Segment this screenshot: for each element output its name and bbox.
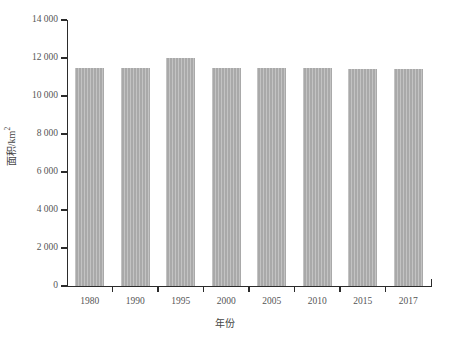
y-axis-tick-label: 2 000 <box>37 243 58 253</box>
x-axis-tick-label: 1995 <box>156 297 206 307</box>
bar-2010 <box>303 68 332 286</box>
y-axis-title: 面积/km2 <box>3 107 18 187</box>
x-axis-tick-label: 2000 <box>201 297 251 307</box>
y-axis-tick-label: 10 000 <box>32 91 58 101</box>
x-axis-tick <box>385 286 386 292</box>
bar-2005 <box>257 68 286 286</box>
x-axis-tick <box>294 286 295 292</box>
x-axis-tick <box>248 286 249 292</box>
bar-2015 <box>348 69 377 286</box>
x-axis-tick <box>112 286 113 292</box>
plot-area <box>67 20 432 286</box>
bar-1995 <box>166 58 195 286</box>
y-axis-tick-label: 0 <box>53 281 58 291</box>
y-axis-tick-label: 14 000 <box>32 15 58 25</box>
x-axis-tick-label: 2015 <box>338 297 388 307</box>
x-axis-tick <box>203 286 204 292</box>
y-axis-tick-label: 12 000 <box>32 53 58 63</box>
x-axis-tick-label: 1980 <box>65 297 115 307</box>
x-axis-tick <box>157 286 158 292</box>
bar-1990 <box>121 68 150 287</box>
y-axis-tick-label: 8 000 <box>37 129 58 139</box>
y-axis-tick-label: 6 000 <box>37 167 58 177</box>
x-axis-tick <box>339 286 340 292</box>
y-axis-tick-label: 4 000 <box>37 205 58 215</box>
x-axis-tick-label: 2010 <box>292 297 342 307</box>
x-axis-title: 年份 <box>0 315 449 330</box>
x-axis-tick-label: 1990 <box>110 297 160 307</box>
x-axis-tick-label: 2005 <box>247 297 297 307</box>
x-axis-tick-label: 2017 <box>383 297 433 307</box>
y-axis-title-exponent: 2 <box>3 127 12 131</box>
bar-2000 <box>212 68 241 286</box>
bar-chart: 02 0004 0006 0008 00010 00012 00014 000 … <box>0 0 449 338</box>
y-axis-title-text: 面积/km <box>6 131 17 167</box>
bar-1980 <box>75 68 104 287</box>
bar-2017 <box>394 69 423 286</box>
